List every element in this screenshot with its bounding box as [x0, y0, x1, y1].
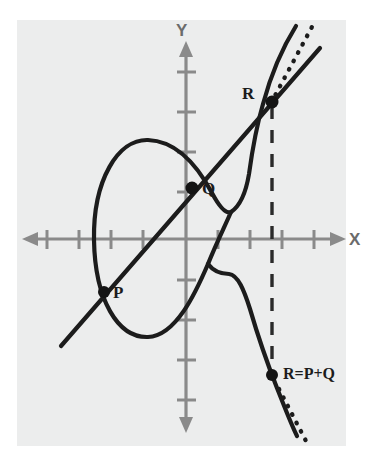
dotted-line-below-result [279, 389, 307, 443]
point-marker-r[interactable] [266, 96, 279, 109]
point-marker-result[interactable] [266, 369, 278, 381]
point-label-q: Q [202, 180, 215, 197]
x-axis-arrow-right [330, 232, 346, 246]
point-marker-q[interactable] [186, 182, 199, 195]
curve-upper-branch [231, 26, 296, 212]
point-marker-p[interactable] [98, 286, 110, 298]
y-axis-arrow-down [179, 417, 193, 433]
point-label-p: P [113, 284, 123, 301]
x-axis-arrow-left [22, 232, 38, 246]
y-axis-label: Y [176, 22, 187, 39]
elliptic-curve-plot [0, 0, 373, 467]
point-label-r: R [242, 85, 254, 102]
figure-root: X Y P Q R R=P+Q [0, 0, 373, 467]
point-label-result: R=P+Q [283, 366, 335, 382]
y-axis-arrow-up [179, 41, 193, 57]
curve-lower-branch [208, 264, 297, 436]
x-axis-label: X [349, 231, 360, 248]
